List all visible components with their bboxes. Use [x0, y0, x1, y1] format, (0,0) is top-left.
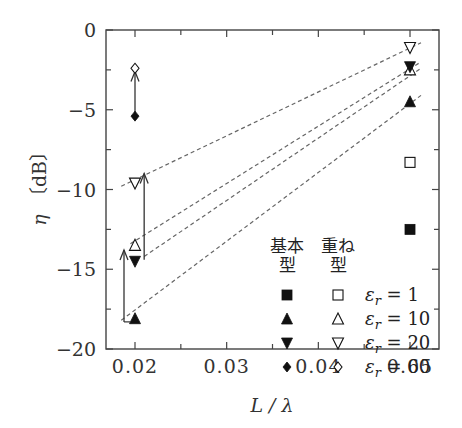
- open-diamond-marker: [131, 63, 139, 73]
- filled-triangle-down-marker: [130, 256, 141, 267]
- y-axis-symbol: η: [28, 214, 50, 226]
- open-triangle-down-marker: [333, 338, 344, 349]
- filled-diamond-marker: [131, 111, 139, 121]
- y-axis-label: η 〔dB〕: [28, 142, 50, 226]
- legend-entry-label: εr = 1: [365, 284, 419, 308]
- y-tick-label: −15: [56, 258, 96, 280]
- x-tick-label: 0.03: [204, 355, 250, 377]
- y-tick-label: −20: [56, 338, 96, 360]
- fit-lines: [121, 43, 421, 321]
- legend-entry-label: εr = 60: [365, 356, 430, 380]
- open-triangle-down-marker: [130, 178, 141, 189]
- legend-column-header: 重ね: [321, 236, 355, 256]
- legend-column-header: 型: [279, 255, 296, 275]
- dashed-fit-line: [144, 68, 421, 256]
- filled-diamond-marker: [283, 362, 291, 372]
- legend-entry-label: εr = 20: [365, 332, 430, 356]
- y-tick-label: −10: [56, 179, 96, 201]
- open-triangle-up-marker: [333, 313, 344, 324]
- open-square-marker: [405, 157, 415, 167]
- y-tick-label: −5: [68, 99, 96, 121]
- open-triangle-down-marker: [405, 43, 416, 54]
- filled-square-marker: [405, 224, 415, 234]
- x-tick-label: 0.02: [112, 355, 158, 377]
- y-tick-label: 0: [84, 19, 96, 41]
- arrows: [120, 71, 148, 321]
- filled-square-marker: [282, 290, 292, 300]
- open-square-marker: [333, 290, 343, 300]
- x-axis-label: L / λ: [249, 394, 293, 416]
- legend: 基本型重ね型εr = 1εr = 10εr = 20εr = 60: [270, 236, 430, 380]
- legend-column-header: 型: [330, 255, 347, 275]
- y-axis-unit: 〔dB〕: [28, 142, 50, 206]
- dashed-fit-line: [121, 43, 421, 187]
- open-triangle-up-marker: [130, 239, 141, 250]
- legend-column-header: 基本: [270, 236, 304, 256]
- filled-triangle-up-marker: [282, 313, 293, 324]
- chart-canvas: 0−5−10−15−200.020.030.040.05 基本型重ね型εr = …: [0, 0, 462, 428]
- dashed-fit-line: [130, 62, 421, 244]
- legend-entry-label: εr = 10: [365, 308, 430, 332]
- dashed-fit-line: [121, 95, 421, 320]
- filled-triangle-up-marker: [130, 313, 141, 324]
- filled-triangle-down-marker: [282, 338, 293, 349]
